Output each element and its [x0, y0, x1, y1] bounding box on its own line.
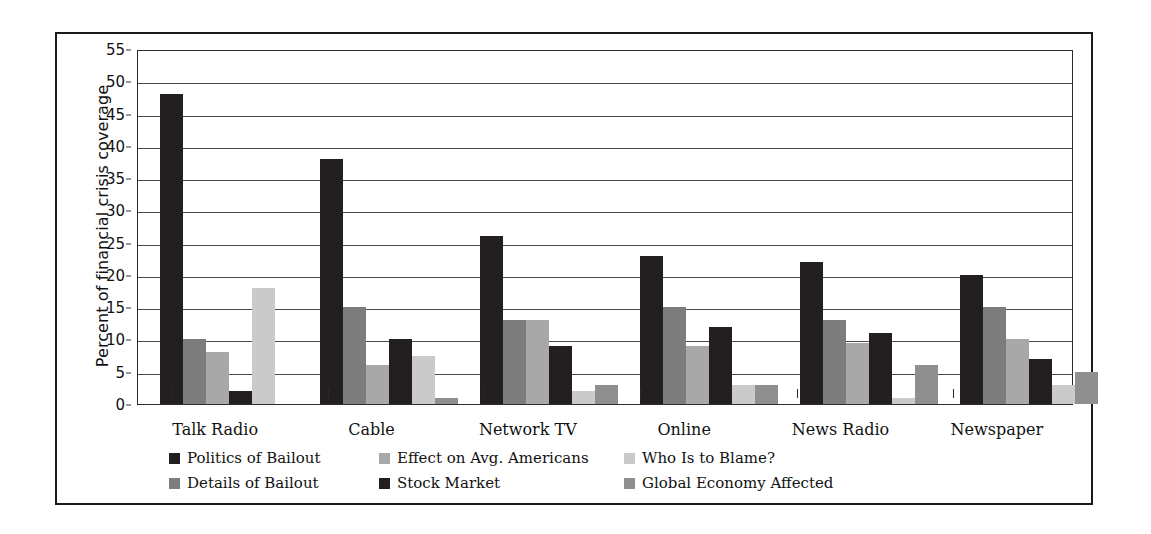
y-axis-tick-mark [126, 82, 131, 83]
bar[interactable] [320, 159, 343, 404]
bar[interactable] [800, 262, 823, 404]
y-axis-tick-label: 30 [106, 202, 125, 220]
y-axis-tick-mark [126, 50, 131, 51]
x-axis-category-label: Talk Radio [172, 420, 258, 439]
x-axis-category-label: Network TV [479, 420, 577, 439]
x-axis-tick-mark [797, 389, 798, 398]
bar-group [138, 51, 298, 404]
bar[interactable] [892, 398, 915, 404]
bars-layer [138, 51, 1072, 404]
plot-wrapper: 5550454035302520151050 [101, 50, 1073, 405]
chart-figure: Percent of financial crisis coverage 555… [55, 32, 1093, 505]
y-axis-tick-label: 10 [106, 331, 125, 349]
y-axis-tick-label: 35 [106, 170, 125, 188]
y-axis-tick-label: 0 [115, 396, 125, 414]
bar[interactable] [435, 398, 458, 404]
y-axis-tick-label: 40 [106, 138, 125, 156]
legend-swatch-icon [624, 478, 635, 489]
legend-swatch-icon [624, 453, 635, 464]
y-axis-tick-mark [126, 308, 131, 309]
legend-swatch-icon [169, 478, 180, 489]
bar[interactable] [640, 256, 663, 404]
x-axis-tick-mark [328, 389, 329, 398]
x-axis-tick-mark [953, 389, 954, 398]
bar[interactable] [915, 365, 938, 404]
y-axis-tick-mark [126, 275, 131, 276]
legend-row: Politics of BailoutEffect on Avg. Americ… [169, 449, 1049, 467]
legend-item[interactable]: Global Economy Affected [624, 474, 884, 492]
bar-group [458, 51, 618, 404]
legend-swatch-icon [169, 453, 180, 464]
plot-area [137, 50, 1073, 405]
bar-group [618, 51, 778, 404]
legend-item[interactable]: Details of Bailout [169, 474, 379, 492]
bar[interactable] [1075, 372, 1098, 404]
x-axis-category-label: Newspaper [951, 420, 1044, 439]
y-axis-tick-label: 20 [106, 267, 125, 285]
y-axis-tick-mark [126, 405, 131, 406]
legend-item[interactable]: Who Is to Blame? [624, 449, 884, 467]
chart-legend: Politics of BailoutEffect on Avg. Americ… [169, 449, 1049, 499]
y-axis-tick-label: 45 [106, 106, 125, 124]
x-axis-tick-mark [171, 389, 172, 398]
legend-label: Who Is to Blame? [642, 449, 775, 467]
y-axis-tick-mark [126, 340, 131, 341]
bar-group [298, 51, 458, 404]
x-axis-tick-mark [640, 389, 641, 398]
bar[interactable] [160, 94, 183, 404]
legend-label: Details of Bailout [187, 474, 319, 492]
x-axis-category-label: News Radio [792, 420, 889, 439]
legend-swatch-icon [379, 478, 390, 489]
x-axis-tick-labels: Talk RadioCableNetwork TVOnlineNews Radi… [137, 420, 1073, 444]
x-axis-category-label: Online [657, 420, 710, 439]
bar-group [938, 51, 1098, 404]
y-axis-tick-label: 55 [106, 41, 125, 59]
y-axis-tick-label: 25 [106, 235, 125, 253]
bar-group [778, 51, 938, 404]
y-axis-tick-label: 50 [106, 73, 125, 91]
legend-label: Politics of Bailout [187, 449, 320, 467]
legend-label: Stock Market [397, 474, 500, 492]
y-axis-tick-labels: 5550454035302520151050 [101, 50, 131, 405]
bar[interactable] [480, 236, 503, 404]
y-axis-tick-mark [126, 372, 131, 373]
bar[interactable] [252, 288, 275, 404]
x-axis-category-label: Cable [348, 420, 395, 439]
legend-label: Effect on Avg. Americans [397, 449, 589, 467]
y-axis-tick-label: 15 [106, 299, 125, 317]
legend-swatch-icon [379, 453, 390, 464]
legend-item[interactable]: Politics of Bailout [169, 449, 379, 467]
y-axis-tick-mark [126, 114, 131, 115]
bar[interactable] [960, 275, 983, 404]
legend-row: Details of BailoutStock MarketGlobal Eco… [169, 474, 1049, 492]
x-axis-tick-mark [484, 389, 485, 398]
y-axis-tick-label: 5 [115, 364, 125, 382]
y-axis-tick-mark [126, 179, 131, 180]
y-axis-tick-mark [126, 243, 131, 244]
y-axis-tick-mark [126, 146, 131, 147]
bar[interactable] [366, 365, 389, 404]
x-axis-tick-marks [93, 389, 1091, 398]
legend-item[interactable]: Effect on Avg. Americans [379, 449, 624, 467]
legend-item[interactable]: Stock Market [379, 474, 624, 492]
legend-label: Global Economy Affected [642, 474, 833, 492]
y-axis-tick-mark [126, 211, 131, 212]
